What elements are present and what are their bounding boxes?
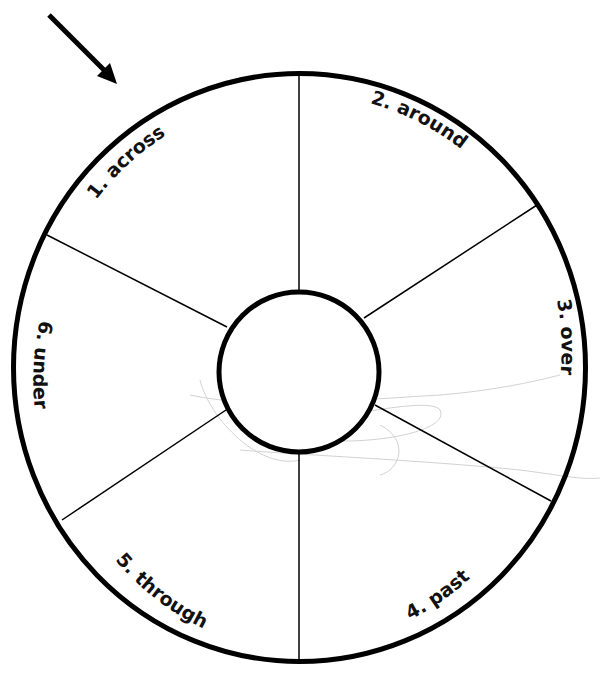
segment-label-4: 4. past (401, 565, 473, 624)
segment-label-3: 3. over (553, 297, 580, 376)
preposition-wheel: 1. across 2. around 3. over 4. past 5. t… (0, 0, 611, 679)
arrow-icon (49, 15, 117, 84)
segment-label-5: 5. through (112, 548, 212, 632)
center-circle[interactable] (219, 292, 379, 452)
segment-label-6: 6. under (29, 319, 57, 410)
